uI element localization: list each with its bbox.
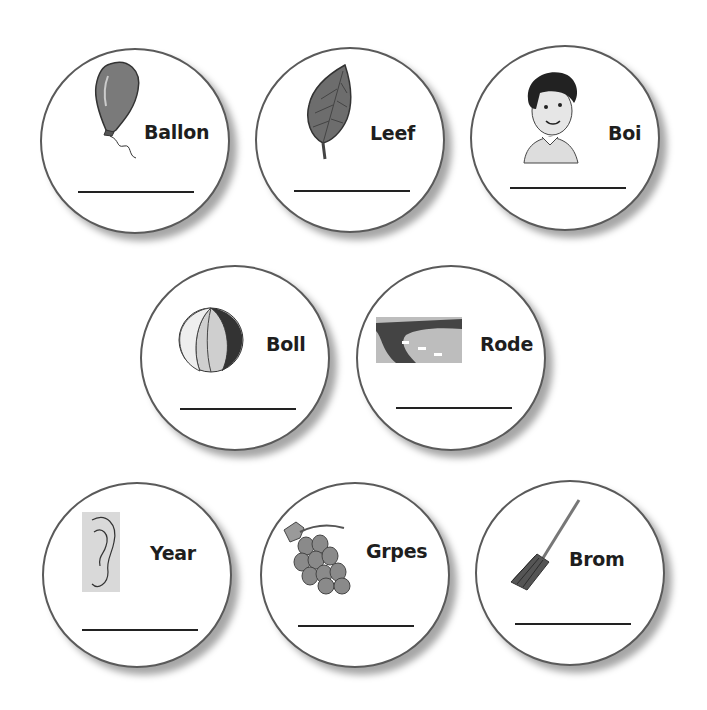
card-year: Year bbox=[42, 482, 232, 668]
leaf-icon bbox=[303, 63, 355, 163]
answer-line[interactable] bbox=[180, 408, 296, 410]
answer-line[interactable] bbox=[510, 187, 626, 189]
boy-icon bbox=[516, 69, 586, 165]
card-boi: Boi bbox=[470, 45, 660, 231]
card-brom: Brom bbox=[475, 480, 665, 666]
card-leef: Leef bbox=[255, 47, 445, 233]
card-word: Grpes bbox=[366, 540, 427, 562]
road-icon bbox=[376, 317, 462, 363]
answer-line[interactable] bbox=[294, 190, 410, 192]
card-word: Boi bbox=[608, 122, 641, 144]
grapes-icon bbox=[282, 520, 370, 596]
ball-icon bbox=[176, 307, 246, 373]
card-boll: Boll bbox=[140, 265, 330, 451]
card-ballon: Ballon bbox=[40, 48, 230, 234]
card-rode: Rode bbox=[356, 265, 546, 451]
answer-line[interactable] bbox=[396, 407, 512, 409]
card-word: Year bbox=[150, 542, 196, 564]
card-grpes: Grpes bbox=[260, 482, 450, 668]
card-word: Ballon bbox=[144, 121, 209, 143]
card-word: Boll bbox=[266, 333, 305, 355]
ear-icon bbox=[82, 512, 120, 592]
card-word: Brom bbox=[569, 548, 625, 570]
answer-line[interactable] bbox=[78, 191, 194, 193]
card-word: Rode bbox=[480, 333, 533, 355]
answer-line[interactable] bbox=[82, 629, 198, 631]
answer-line[interactable] bbox=[298, 625, 414, 627]
card-word: Leef bbox=[370, 122, 415, 144]
answer-line[interactable] bbox=[515, 623, 631, 625]
broom-icon bbox=[507, 498, 583, 592]
balloon-icon bbox=[80, 56, 152, 166]
